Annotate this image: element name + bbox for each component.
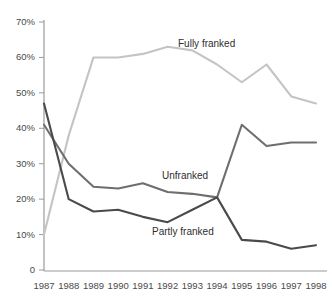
y-axis-tick-label: 50% [0, 87, 35, 98]
y-axis-ticks [39, 22, 44, 270]
series-line-unfranked [44, 125, 316, 198]
y-axis-tick-label: 30% [0, 158, 35, 169]
x-axis-tick-label: 1998 [302, 280, 330, 291]
y-axis-tick-label: 40% [0, 122, 35, 133]
y-axis-tick-label: 70% [0, 16, 35, 27]
series-paths-group [44, 47, 316, 249]
y-axis-tick-label: 60% [0, 51, 35, 62]
series-annotation-label: Unfranked [162, 170, 208, 181]
series-annotation-label: Fully franked [178, 38, 235, 49]
y-axis-tick-label: 20% [0, 193, 35, 204]
series-annotation-label: Partly franked [152, 226, 214, 237]
line-chart-plot [0, 0, 332, 303]
chart-container: 70%60%50%40%30%20%10%0 19871988198919901… [0, 0, 332, 303]
y-axis-tick-label: 10% [0, 229, 35, 240]
y-axis-tick-label: 0 [0, 264, 35, 275]
